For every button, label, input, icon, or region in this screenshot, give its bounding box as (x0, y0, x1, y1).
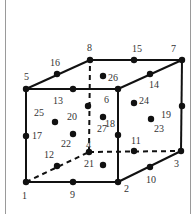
node-7-dot (179, 57, 185, 63)
node-9-dot (70, 179, 76, 185)
node-21-label: 21 (84, 158, 94, 169)
node-16-dot (54, 71, 60, 77)
node-6-label: 6 (104, 94, 109, 105)
node-5-label: 5 (24, 71, 29, 82)
node-19-dot (179, 103, 185, 109)
node-4-label: 4 (86, 139, 91, 150)
node-labels: 1234567891011121314151617181920212223242… (22, 42, 179, 201)
node-15-label: 15 (132, 43, 142, 54)
node-7-label: 7 (171, 43, 176, 54)
node-13-dot (70, 86, 76, 92)
node-5-dot (23, 86, 29, 92)
node-14-dot (147, 71, 153, 77)
node-1-dot (23, 179, 29, 185)
node-23-dot (148, 116, 154, 122)
node-27-label: 27 (97, 123, 107, 134)
node-6-dot (115, 86, 121, 92)
node-15-dot (131, 57, 137, 63)
node-12-dot (54, 163, 60, 169)
node-26-label: 26 (108, 72, 118, 83)
node-16-label: 16 (50, 57, 60, 68)
node-25-label: 25 (34, 107, 44, 118)
node-20-dot (85, 103, 91, 109)
node-17-dot (23, 133, 29, 139)
node-19-label: 19 (161, 109, 171, 120)
node-22-label: 22 (61, 138, 71, 149)
node-2-dot (115, 179, 121, 185)
node-3-dot (178, 148, 184, 154)
node-9-label: 9 (70, 189, 75, 200)
node-12-label: 12 (44, 149, 54, 160)
node-1-label: 1 (22, 190, 27, 201)
node-18-dot (115, 132, 121, 138)
node-17-label: 17 (32, 130, 42, 141)
node-23-label: 23 (154, 123, 164, 134)
node-3-label: 3 (174, 158, 179, 169)
node-24-label: 24 (139, 95, 149, 106)
node-22-dot (70, 131, 76, 137)
node-10-label: 10 (146, 174, 156, 185)
node-11-label: 11 (131, 135, 141, 146)
node-8-dot (87, 57, 93, 63)
hexahedron-node-diagram: 1234567891011121314151617181920212223242… (0, 0, 196, 214)
node-26-dot (100, 73, 106, 79)
node-21-dot (100, 162, 106, 168)
node-13-label: 13 (53, 95, 63, 106)
node-24-dot (131, 100, 137, 106)
node-25-dot (52, 119, 58, 125)
node-2-label: 2 (124, 183, 129, 194)
node-20-label: 20 (67, 111, 77, 122)
node-10-dot (147, 164, 153, 170)
node-8-label: 8 (87, 42, 92, 53)
node-11-dot (131, 148, 137, 154)
node-14-label: 14 (149, 79, 159, 90)
element-nodes (23, 57, 185, 185)
